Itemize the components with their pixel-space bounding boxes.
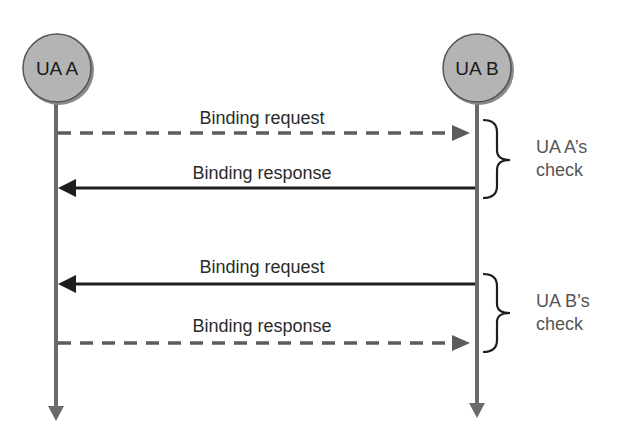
message-label: Binding response	[192, 316, 331, 336]
group-label-line1: UA A’s	[536, 137, 587, 157]
lifeline-ua-b	[469, 102, 485, 418]
group-ua-a-check: UA A’s check	[483, 120, 587, 198]
group-label-line2: check	[536, 160, 584, 180]
arrowhead-icon	[58, 275, 76, 293]
message-label: Binding request	[199, 257, 324, 277]
group-label-line2: check	[536, 314, 584, 334]
arrowhead-icon	[452, 125, 470, 141]
message-label: Binding request	[199, 108, 324, 128]
lifeline-ua-a	[48, 102, 64, 421]
message-binding-request-a-to-b: Binding request	[58, 108, 470, 141]
sequence-diagram: UA A UA B Binding request Binding respon…	[0, 0, 621, 438]
message-binding-request-b-to-a: Binding request	[58, 257, 475, 293]
arrowhead-icon	[58, 179, 76, 197]
lifeline-a-arrow-icon	[48, 406, 64, 421]
participant-label: UA A	[36, 58, 79, 79]
participant-ua-a: UA A	[23, 34, 94, 105]
lifeline-b-arrow-icon	[469, 403, 485, 418]
participant-label: UA B	[455, 58, 498, 79]
message-binding-response-a-to-b: Binding response	[58, 316, 470, 351]
arrowhead-icon	[452, 335, 470, 351]
curly-brace-icon	[483, 274, 510, 352]
group-ua-b-check: UA B’s check	[483, 274, 590, 352]
curly-brace-icon	[483, 120, 510, 198]
participant-ua-b: UA B	[443, 34, 514, 105]
message-binding-response-b-to-a: Binding response	[58, 163, 475, 197]
group-label-line1: UA B’s	[536, 291, 590, 311]
message-label: Binding response	[192, 163, 331, 183]
